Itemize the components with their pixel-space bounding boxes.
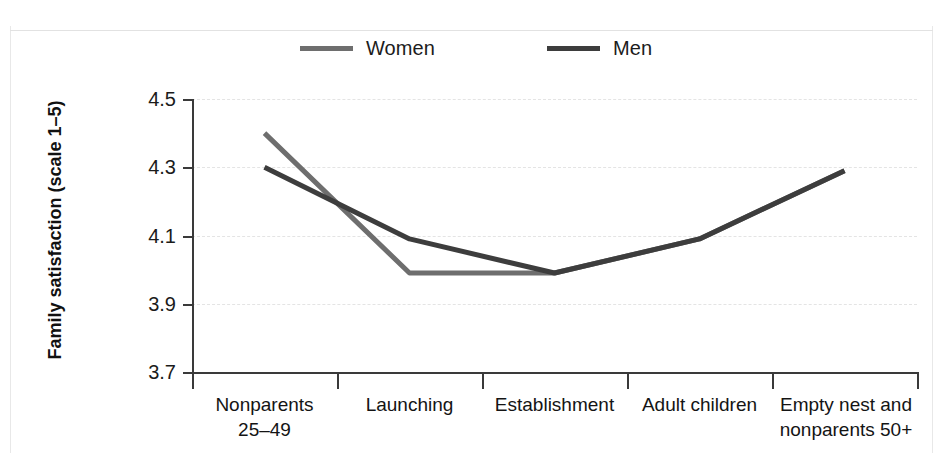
chart-series-layer bbox=[0, 0, 951, 453]
series-line-women bbox=[265, 133, 845, 273]
chart-page: Women Men Family satisfaction (scale 1–5… bbox=[0, 0, 951, 453]
